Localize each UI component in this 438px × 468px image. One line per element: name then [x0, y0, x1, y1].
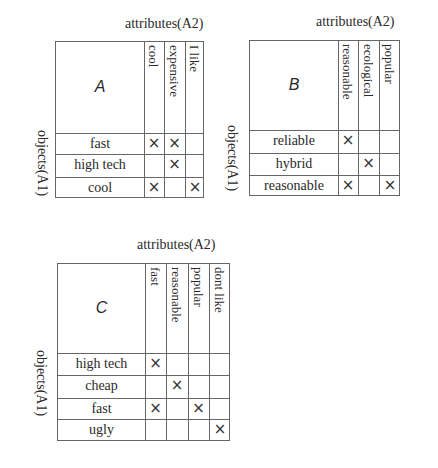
- attribute-header: popular: [383, 44, 396, 84]
- context-name: A: [56, 78, 144, 96]
- grid-line: [56, 133, 203, 134]
- attribute-header: reasonable: [170, 267, 183, 323]
- cross-mark: ×: [144, 136, 164, 151]
- cross-mark: ×: [209, 422, 231, 437]
- context-table-c: Cfastreasonablepopulardont likehigh tech…: [57, 263, 230, 441]
- grid-line: [164, 42, 165, 197]
- grid-line: [358, 41, 359, 195]
- object-header: fast: [58, 401, 145, 417]
- grid-line: [58, 419, 229, 420]
- object-header: fast: [56, 136, 144, 152]
- object-header: ugly: [58, 422, 145, 438]
- attribute-header: ecological: [362, 44, 375, 97]
- cross-mark: ×: [145, 401, 166, 416]
- attributes-label-a: attributes(A2): [125, 16, 204, 32]
- context-name: C: [58, 299, 145, 317]
- grid-line: [250, 153, 399, 154]
- context-table-b: Breasonableecologicalpopularreliablehybr…: [249, 40, 400, 196]
- object-header: reliable: [250, 133, 338, 149]
- grid-line: [209, 264, 210, 440]
- grid-line: [58, 353, 229, 354]
- object-header: reasonable: [250, 178, 338, 194]
- attributes-label-c: attributes(A2): [137, 237, 216, 253]
- attribute-header: fast: [149, 267, 162, 286]
- grid-line: [166, 264, 167, 440]
- object-header: high tech: [56, 157, 144, 173]
- attribute-header: expensive: [168, 45, 181, 97]
- grid-line: [379, 41, 380, 195]
- object-header: hybrid: [250, 156, 338, 172]
- attribute-header: popular: [192, 267, 205, 307]
- cross-mark: ×: [338, 178, 358, 193]
- object-header: cheap: [58, 378, 145, 394]
- grid-line: [250, 130, 399, 131]
- cross-mark: ×: [144, 180, 164, 195]
- cross-mark: ×: [358, 156, 379, 171]
- grid-line: [58, 375, 229, 376]
- cross-mark: ×: [145, 356, 166, 371]
- cross-mark: ×: [338, 133, 358, 148]
- grid-line: [185, 42, 186, 197]
- cross-mark: ×: [379, 178, 401, 193]
- grid-line: [338, 41, 339, 195]
- cross-mark: ×: [164, 136, 185, 151]
- attribute-header: reasonable: [341, 44, 354, 100]
- object-header: high tech: [58, 356, 145, 372]
- attributes-label-b: attributes(A2): [316, 14, 395, 30]
- attribute-header: cool: [147, 45, 160, 67]
- context-name: B: [250, 76, 338, 94]
- cross-mark: ×: [185, 180, 205, 195]
- grid-line: [250, 175, 399, 176]
- attribute-header: dont like: [213, 267, 226, 313]
- objects-label-c: objects(A1): [33, 350, 49, 416]
- object-header: cool: [56, 180, 144, 196]
- attribute-header: I like: [188, 45, 201, 72]
- objects-label-b: objects(A1): [224, 125, 240, 191]
- objects-label-a: objects(A1): [34, 130, 50, 196]
- grid-line: [56, 177, 203, 178]
- context-table-a: AcoolexpensiveI likefasthigh techcool×××…: [55, 41, 204, 198]
- grid-line: [56, 154, 203, 155]
- grid-line: [144, 42, 145, 197]
- cross-mark: ×: [164, 157, 185, 172]
- cross-mark: ×: [188, 401, 209, 416]
- cross-mark: ×: [166, 378, 188, 393]
